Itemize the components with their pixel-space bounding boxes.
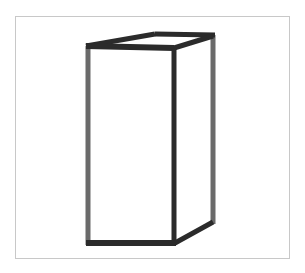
top-front-edge [86, 46, 174, 48]
top-back-edge [155, 34, 215, 35]
bottom-right-slant-edge [175, 222, 213, 243]
top-right-slant-edge [174, 36, 213, 48]
prism-diagram [0, 0, 305, 273]
